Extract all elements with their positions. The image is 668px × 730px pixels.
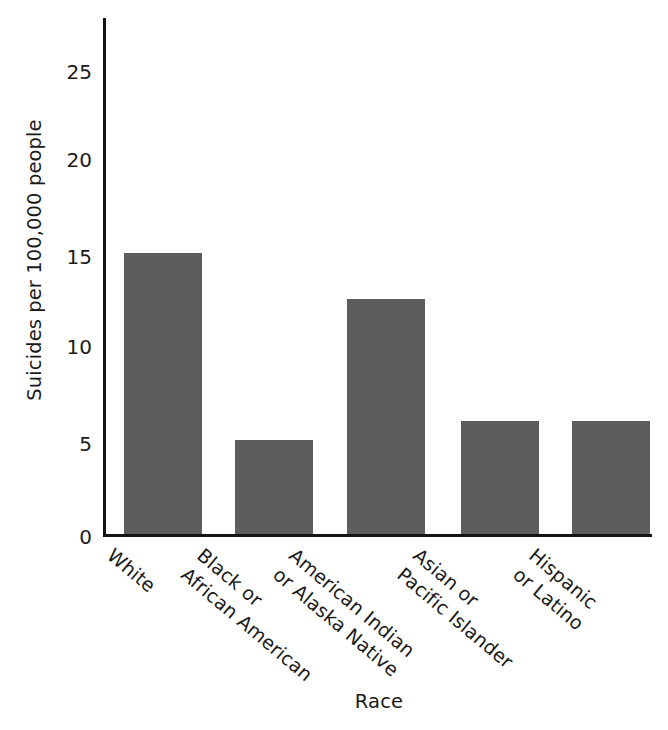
bar-american-indian-alaska-native: [347, 299, 425, 534]
y-tick-label: 20: [8, 150, 92, 170]
bar-hispanic-latino: [572, 421, 650, 534]
y-axis-tick-labels: 25 20 15 10 5 0: [0, 0, 92, 730]
plot-area: [106, 18, 652, 534]
y-tick-label: 0: [8, 527, 92, 547]
x-axis-line: [103, 534, 652, 537]
bar-chart: Suicides per 100,000 people 25 20 15 10 …: [0, 0, 668, 730]
bar-white: [124, 253, 202, 534]
y-tick-label: 15: [8, 247, 92, 267]
x-axis-title: Race: [106, 690, 652, 713]
y-tick-label: 25: [8, 62, 92, 82]
y-tick-label: 5: [8, 434, 92, 454]
bar-black-african-american: [235, 440, 313, 534]
bar-asian-pacific-islander: [461, 421, 539, 534]
y-tick-label: 10: [8, 337, 92, 357]
